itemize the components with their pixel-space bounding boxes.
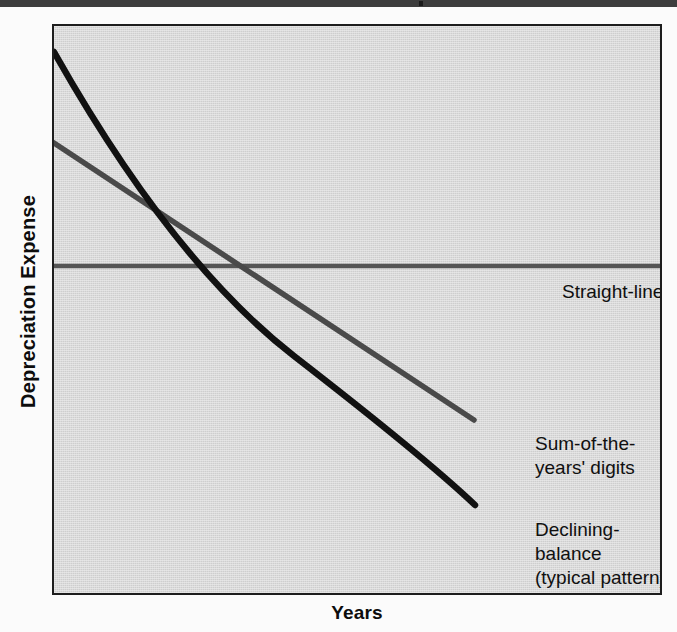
series-label-straight-line: Straight-line [562, 280, 662, 304]
series-line-declining-balance [54, 52, 475, 505]
depreciation-methods-figure: Straight-line Sum-of-the-years' digits D… [0, 0, 677, 632]
series-label-sum-of-years-digits: Sum-of-the-years' digits [535, 432, 635, 480]
x-axis-title: Years [52, 602, 662, 624]
series-label-declining-balance: Declining-balance(typical pattern) [535, 518, 662, 590]
plot-panel: Straight-line Sum-of-the-years' digits D… [52, 24, 662, 595]
declining-label-line-2: balance [535, 543, 602, 564]
soyd-label-line-2: years' digits [535, 457, 635, 478]
y-axis-title: Depreciation Expense [17, 192, 40, 412]
declining-label-line-3: (typical pattern) [535, 567, 662, 588]
declining-label-line-1: Declining- [535, 519, 619, 540]
chart-series-canvas [54, 26, 660, 593]
scan-speck [419, 1, 423, 6]
series-line-sum-of-years-digits [54, 143, 474, 420]
scan-top-band [0, 0, 677, 7]
soyd-label-line-1: Sum-of-the- [535, 433, 635, 454]
